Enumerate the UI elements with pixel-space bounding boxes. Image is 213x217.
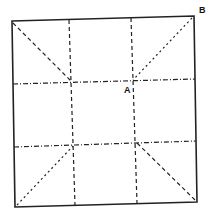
diagonal-crease-top-left <box>13 23 71 81</box>
vertical-crease-right <box>131 18 137 203</box>
diagonal-crease-bottom-right <box>136 142 195 200</box>
horizontal-crease-top <box>13 79 195 84</box>
label-point-a: A <box>124 85 131 95</box>
diagonal-crease-bottom-left <box>17 146 73 205</box>
label-point-b: B <box>199 5 206 15</box>
paper-outline <box>12 16 197 207</box>
diagonal-crease-top-right <box>133 18 192 80</box>
horizontal-crease-bottom <box>14 141 196 147</box>
folding-diagram: A B <box>0 0 213 217</box>
vertical-crease-left <box>69 20 75 205</box>
